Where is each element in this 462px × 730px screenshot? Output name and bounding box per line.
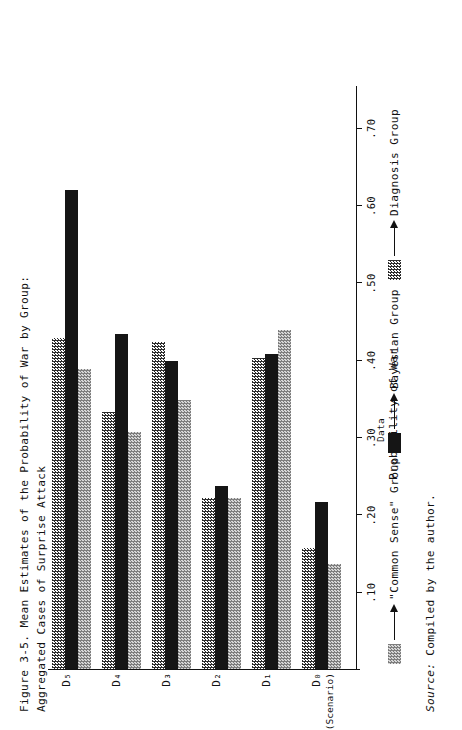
bar-diagnosis	[102, 412, 115, 669]
axis-tick	[356, 128, 362, 129]
bar-diagnosis	[252, 358, 265, 669]
bar-common	[78, 369, 91, 669]
axis-tick-label: .20	[365, 505, 377, 525]
light-checker-swatch-icon	[388, 644, 401, 664]
arrow-right-icon	[388, 602, 401, 644]
category-label: D₃	[160, 673, 173, 703]
value-axis-line	[356, 86, 357, 670]
source-label: Source:	[424, 663, 437, 712]
axis-tick	[356, 592, 362, 593]
category-label: D₂	[210, 673, 223, 703]
source-text: Compiled by the author.	[424, 494, 437, 663]
bar-bayesian	[65, 190, 78, 669]
axis-tick-label: .60	[365, 196, 377, 216]
bar-diagnosis	[302, 548, 315, 669]
bar-common	[128, 432, 141, 669]
legend-item-common: "Common Sense" Group	[388, 457, 401, 664]
legend-label: Bayesian Group	[388, 289, 401, 391]
category-label: D₀	[310, 673, 323, 703]
legend-label: "Common Sense" Group	[388, 457, 401, 602]
bar-bayesian	[265, 354, 278, 669]
category-label: D₁	[260, 673, 273, 703]
solid-black-swatch-icon	[388, 433, 401, 453]
category-sublabel: (Scenario)	[324, 673, 335, 730]
arrow-right-icon	[388, 391, 401, 433]
dark-checker-swatch-icon	[388, 260, 401, 280]
rotated-figure-sheet: Figure 3-5. Mean Estimates of the Probab…	[0, 0, 462, 730]
bar-diagnosis	[152, 342, 165, 669]
figure-caption: Figure 3-5. Mean Estimates of the Probab…	[16, 152, 50, 712]
category-label: D₅	[60, 673, 73, 703]
bar-common	[278, 330, 291, 669]
axis-tick-label: .50	[365, 273, 377, 293]
bar-common	[228, 498, 241, 669]
source-note: Source: Compiled by the author.	[424, 494, 437, 712]
axis-tick	[356, 205, 362, 206]
axis-tick-label: .70	[365, 119, 377, 139]
bar-bayesian	[115, 334, 128, 669]
bar-common	[328, 564, 341, 669]
axis-tick-label: .10	[365, 583, 377, 603]
bar-bayesian	[315, 502, 328, 669]
bar-common	[178, 400, 191, 669]
axis-tick	[356, 437, 362, 438]
legend-item-diagnosis: Diagnosis Group	[388, 109, 401, 280]
arrow-right-icon	[388, 218, 401, 260]
bar-diagnosis	[202, 498, 215, 669]
bar-diagnosis	[52, 338, 65, 669]
bar-bayesian	[215, 486, 228, 669]
legend-item-bayesian: Bayesian Group	[388, 289, 401, 453]
axis-tick	[356, 514, 362, 515]
legend-label: Diagnosis Group	[388, 109, 401, 218]
bar-bayesian	[165, 361, 178, 669]
axis-tick-label: .40	[365, 351, 377, 371]
axis-tick	[356, 360, 362, 361]
category-label: D₄	[110, 673, 123, 703]
chart-plot-area: .10 .20 .30 .40 .50 .60 .70 Probability …	[56, 50, 356, 670]
chart-legend: Data "Common Sense" Group Bayesian Group…	[388, 50, 428, 670]
legend-data-note: Data	[375, 418, 386, 442]
axis-tick	[356, 282, 362, 283]
